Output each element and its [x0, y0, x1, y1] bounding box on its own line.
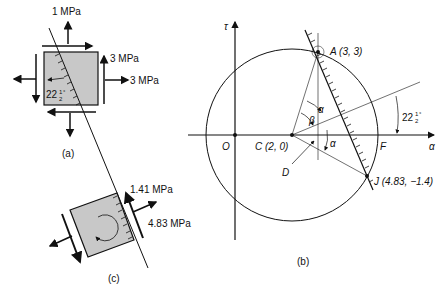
- D-pointer-arrow: [292, 141, 314, 164]
- point-C: [290, 133, 294, 137]
- label-F: F: [380, 141, 387, 152]
- label-1mpa: 1 MPa: [52, 6, 81, 17]
- label-1-41mpa: 1.41 MPa: [130, 184, 173, 195]
- line-22-5-deg: [292, 82, 420, 135]
- angle-22-5-arc: [396, 96, 398, 133]
- label-O: O: [222, 141, 230, 152]
- figure-a-caption: (a): [62, 148, 74, 159]
- label-beta: β: [308, 115, 315, 126]
- figure-c-rotated-element: 1.41 MPa 4.83 MPa (c): [50, 184, 191, 284]
- label-alpha-lower: α: [330, 138, 336, 149]
- label-D: D: [282, 167, 289, 178]
- label-normal-3mpa: 3 MPa: [130, 75, 159, 86]
- alpha-arc-lower: [325, 130, 328, 150]
- mohr-circle-diagram: 1 MPa 3 MPa 3 MPa 22 1 2 ° (a) 1.41 MPa …: [0, 0, 443, 293]
- label-alpha-upper: α: [318, 104, 324, 115]
- figure-c-caption: (c): [108, 273, 120, 284]
- label-A: A (3, 3): [329, 46, 362, 57]
- sigma-axis-label: α: [429, 141, 435, 152]
- svg-text:°: °: [419, 111, 422, 117]
- point-O: [233, 133, 237, 137]
- label-J: J (4.83, −1.4): [373, 176, 433, 187]
- tau-axis-label: τ: [224, 21, 229, 32]
- label-C: C (2, 0): [255, 141, 288, 152]
- angle-label-b: 22: [402, 112, 414, 123]
- label-shear-3mpa: 3 MPa: [110, 53, 139, 64]
- label-4-83mpa: 4.83 MPa: [148, 218, 191, 229]
- point-A: [316, 50, 320, 54]
- figure-b-caption: (b): [297, 256, 309, 267]
- angle-label-a: 22: [46, 89, 58, 100]
- figure-b-mohr-circle: τ α O C (2, 0) A (3, 3) F D J (4.83, −1.…: [188, 21, 435, 267]
- svg-text:2: 2: [415, 118, 419, 124]
- normal-arrow-icon: [133, 202, 156, 212]
- point-J: [365, 174, 369, 178]
- normal-arrow-icon: [50, 236, 72, 246]
